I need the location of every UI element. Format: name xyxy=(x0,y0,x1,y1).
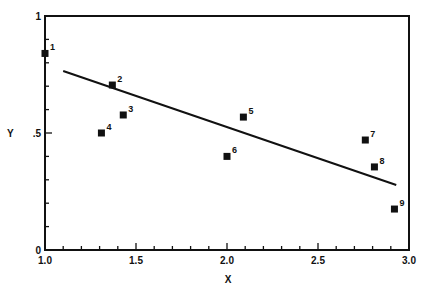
y-tick-label: 1 xyxy=(35,11,41,22)
square-marker-icon xyxy=(391,206,398,213)
x-tick-label: 2.0 xyxy=(220,255,234,266)
point-label: 2 xyxy=(117,74,122,84)
x-tick-label: 1.5 xyxy=(129,255,143,266)
point-label: 8 xyxy=(379,156,384,166)
square-marker-icon xyxy=(98,130,105,137)
y-axis-title: Y xyxy=(7,128,14,139)
square-marker-icon xyxy=(42,50,49,57)
point-label: 6 xyxy=(232,145,237,155)
point-label: 1 xyxy=(50,42,55,52)
square-marker-icon xyxy=(224,153,231,160)
x-tick-label: 1.0 xyxy=(38,255,52,266)
x-axis-title: X xyxy=(225,274,232,285)
data-points: 123456789 xyxy=(42,42,405,212)
point-label: 4 xyxy=(106,122,111,132)
square-marker-icon xyxy=(120,111,127,118)
scatter-chart: 1.01.52.02.53.00.51 X Y 123456789 xyxy=(0,0,429,291)
x-tick-label: 2.5 xyxy=(311,255,325,266)
point-label: 5 xyxy=(248,106,253,116)
square-marker-icon xyxy=(371,163,378,170)
y-tick-label: .5 xyxy=(33,128,42,139)
square-marker-icon xyxy=(240,114,247,121)
y-tick-label: 0 xyxy=(35,245,41,256)
point-label: 9 xyxy=(399,198,404,208)
point-label: 3 xyxy=(128,104,133,114)
x-tick-label: 3.0 xyxy=(402,255,416,266)
square-marker-icon xyxy=(362,137,369,144)
tick-labels: 1.01.52.02.53.00.51 xyxy=(33,11,417,266)
point-label: 7 xyxy=(370,129,375,139)
square-marker-icon xyxy=(109,82,116,89)
